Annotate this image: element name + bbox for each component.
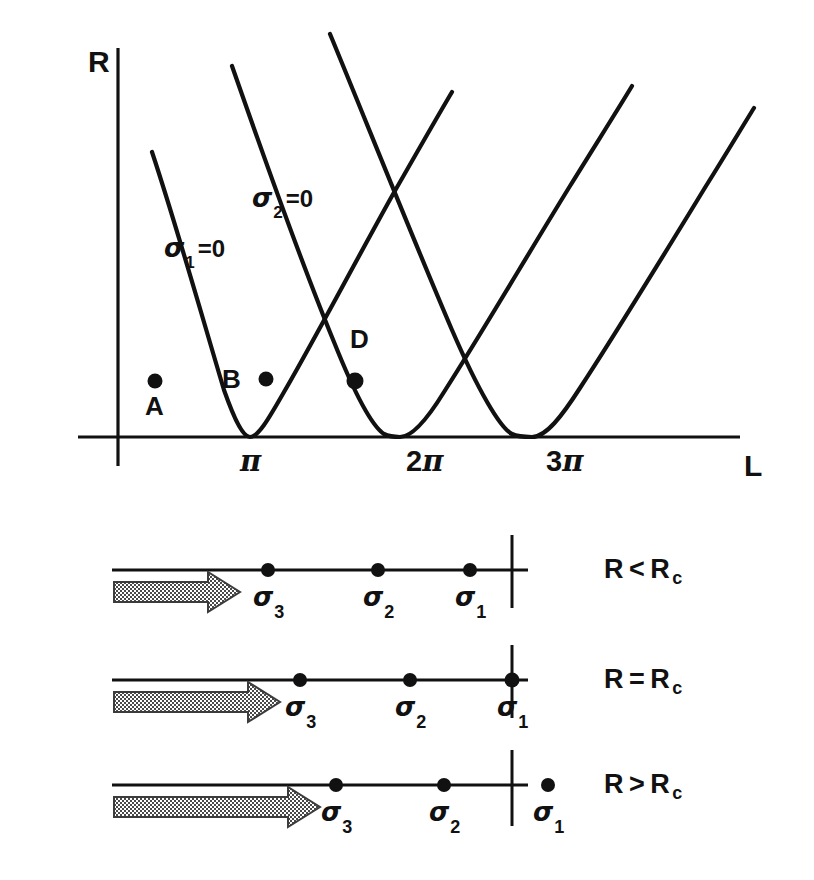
x-axis-label: L (744, 451, 762, 481)
panel3-label-sigma2: σ2 (429, 799, 459, 830)
panel2-condition-label: R=Rc (604, 666, 681, 693)
y-axis-label: R (88, 47, 110, 77)
panel2-label-sigma3: σ3 (285, 694, 315, 725)
curve-label-sigma1: σ1=0 (164, 235, 225, 266)
panel2-marker-sigma2 (403, 673, 417, 687)
curve-label-sigma2: σ2=0 (252, 185, 313, 216)
panel3-arrow-icon (114, 787, 320, 827)
point-A-dot (148, 374, 163, 389)
panel1-label-sigma1: σ1 (455, 584, 485, 615)
x-tick-3pi: 3π (546, 447, 583, 476)
panel3-label-sigma3: σ3 (321, 799, 351, 830)
panel1-marker-sigma2 (371, 563, 385, 577)
panel1-label-sigma2: σ2 (363, 584, 393, 615)
panel2-label-sigma1: σ1 (497, 694, 527, 725)
panel2-marker-sigma3 (293, 673, 307, 687)
panel3-condition-label: R>Rc (604, 771, 681, 798)
panel3-label-sigma1: σ1 (533, 799, 563, 830)
panel2-marker-sigma1 (505, 673, 520, 688)
point-B-label: B (222, 366, 241, 392)
panel2-arrow-icon (114, 682, 280, 722)
x-tick-pi: π (240, 447, 261, 476)
panel1-arrow-icon (114, 572, 240, 612)
panel3-marker-sigma3 (329, 778, 343, 792)
point-D-label: D (350, 326, 369, 352)
physics-figure: R L π 2π 3π σ1=0 σ2=0 A B D (0, 0, 814, 880)
panel1-marker-sigma1 (463, 563, 477, 577)
point-A-label: A (145, 393, 164, 419)
panel3-marker-sigma2 (437, 778, 451, 792)
x-tick-2pi: 2π (406, 447, 443, 476)
panel1-condition-label: R<Rc (604, 556, 681, 583)
panel2-label-sigma2: σ2 (395, 694, 425, 725)
point-D-dot (347, 373, 364, 390)
panel1-marker-sigma3 (261, 563, 275, 577)
panel1-label-sigma3: σ3 (253, 584, 283, 615)
point-B-dot (259, 372, 274, 387)
panel3-marker-sigma1 (541, 778, 555, 792)
